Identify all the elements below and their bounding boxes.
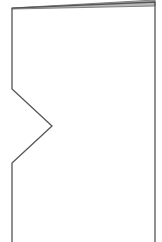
notched-page-diagram bbox=[0, 0, 162, 242]
page-outline bbox=[12, 2, 155, 242]
diagram-canvas bbox=[0, 0, 162, 242]
